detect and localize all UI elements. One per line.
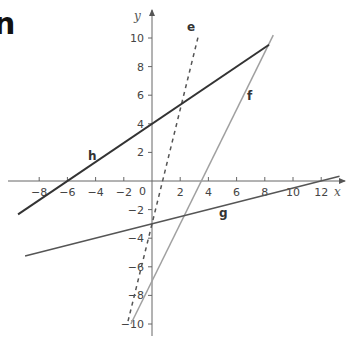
y-tick-label: 6 — [137, 89, 144, 102]
x-tick-label: 6 — [233, 186, 240, 199]
x-axis-label: x — [334, 185, 341, 199]
y-axis-label: y — [133, 9, 141, 23]
line-label-h: h — [88, 149, 97, 163]
y-tick-label: 2 — [137, 146, 144, 159]
x-tick-label: −6 — [59, 186, 75, 199]
x-tick-label: 2 — [177, 186, 184, 199]
line-e — [128, 35, 199, 321]
line-label-f: f — [247, 89, 253, 103]
series-lines — [18, 35, 339, 324]
y-tick-label: −4 — [128, 232, 144, 245]
y-tick-label: −8 — [128, 289, 144, 302]
x-tick-label: 4 — [205, 186, 212, 199]
y-tick-label: 8 — [137, 61, 144, 74]
y-tick-label: −2 — [128, 204, 144, 217]
line-graph: −8−6−4−224681012 108642−2−4−6−8−10 0 x y… — [0, 0, 350, 341]
y-tick-label: −6 — [128, 261, 144, 274]
line-label-e: e — [187, 20, 195, 34]
x-tick-label: −4 — [87, 186, 103, 199]
x-tick-label: 12 — [314, 186, 328, 199]
y-tick-label: 10 — [130, 32, 144, 45]
x-ticks: −8−6−4−224681012 — [31, 177, 328, 199]
origin-label: 0 — [139, 185, 146, 198]
line-label-g: g — [219, 206, 228, 220]
x-tick-label: −2 — [116, 186, 132, 199]
x-tick-label: 8 — [261, 186, 268, 199]
